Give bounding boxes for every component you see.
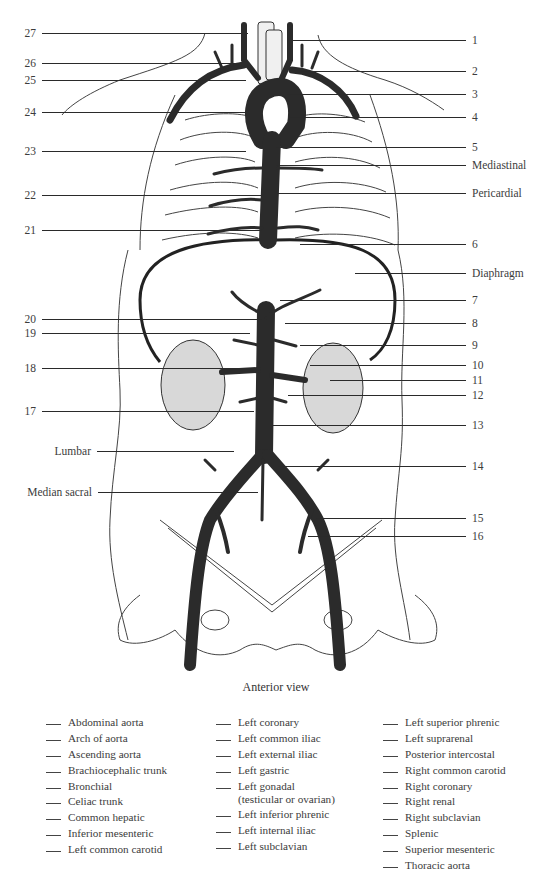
- word-bank-item[interactable]: Right renal: [383, 795, 506, 808]
- answer-blank[interactable]: [383, 811, 398, 820]
- leader-line: [98, 492, 258, 493]
- word-bank-item[interactable]: Thoracic aorta: [383, 859, 506, 872]
- leader-line: [290, 40, 466, 41]
- word-bank-item[interactable]: Common hepatic: [46, 811, 167, 824]
- leader-line: [300, 345, 466, 346]
- answer-blank[interactable]: [383, 780, 398, 789]
- word-bank-item[interactable]: Right coronary: [383, 780, 506, 793]
- answer-blank[interactable]: [383, 764, 398, 773]
- word-bank-item[interactable]: Left superior phrenic: [383, 716, 506, 729]
- answer-blank[interactable]: [46, 748, 61, 757]
- leader-line: [272, 425, 466, 426]
- leader-line: [276, 147, 466, 148]
- leader-line: [42, 80, 246, 81]
- word-bank-item[interactable]: Superior mesenteric: [383, 843, 506, 856]
- answer-blank[interactable]: [46, 732, 61, 741]
- answer-blank[interactable]: [46, 764, 61, 773]
- answer-blank[interactable]: [46, 716, 61, 725]
- label-number: 8: [472, 317, 478, 329]
- answer-blank[interactable]: [46, 780, 61, 789]
- aorta-branches-illustration: [0, 0, 552, 680]
- label-number: 24: [25, 106, 37, 118]
- answer-blank[interactable]: [383, 716, 398, 725]
- label-number: 7: [472, 294, 478, 306]
- label-number: 19: [25, 327, 37, 339]
- word-bank-item[interactable]: Bronchial: [46, 780, 167, 793]
- leader-line: [42, 368, 250, 369]
- word-bank-item[interactable]: Left internal iliac: [216, 824, 335, 837]
- leader-line: [278, 466, 466, 467]
- leader-line: [300, 71, 466, 72]
- label-number: 21: [25, 224, 37, 236]
- answer-blank[interactable]: [216, 748, 231, 757]
- answer-blank[interactable]: [216, 840, 231, 849]
- leader-line: [285, 323, 466, 324]
- answer-blank[interactable]: [216, 808, 231, 817]
- leader-line: [276, 193, 466, 194]
- label-number: 23: [25, 145, 37, 157]
- word-bank-item[interactable]: Inferior mesenteric: [46, 827, 167, 840]
- word-bank-item[interactable]: Left gonadal (testicular or ovarian): [216, 780, 335, 806]
- leader-line: [330, 380, 466, 381]
- word-bank-item[interactable]: Left subclavian: [216, 840, 335, 853]
- leader-line: [42, 230, 262, 231]
- leader-line: [42, 195, 262, 196]
- word-bank-item[interactable]: Left inferior phrenic: [216, 808, 335, 821]
- leader-line: [97, 451, 234, 452]
- word-bank-item[interactable]: Left common carotid: [46, 843, 167, 856]
- answer-blank[interactable]: [216, 716, 231, 725]
- word-bank-item[interactable]: Ascending aorta: [46, 748, 167, 761]
- leader-line: [310, 365, 466, 366]
- label-number: 14: [472, 460, 484, 472]
- label-number: 26: [25, 57, 37, 69]
- leader-line: [288, 395, 466, 396]
- word-bank-item[interactable]: Splenic: [383, 827, 506, 840]
- word-bank-column-2: Left coronary Left common iliac Left ext…: [216, 716, 335, 856]
- word-bank-item[interactable]: Celiac trunk: [46, 795, 167, 808]
- label-number: 3: [472, 88, 478, 100]
- answer-blank[interactable]: [216, 732, 231, 741]
- leader-line: [42, 411, 254, 412]
- leader-line: [287, 94, 466, 95]
- word-bank-item[interactable]: Right subclavian: [383, 811, 506, 824]
- word-bank-item[interactable]: Left common iliac: [216, 732, 335, 745]
- answer-blank[interactable]: [46, 795, 61, 804]
- answer-blank[interactable]: [216, 824, 231, 833]
- word-bank-item[interactable]: Brachiocephalic trunk: [46, 764, 167, 777]
- leader-line: [42, 63, 240, 64]
- answer-blank[interactable]: [46, 811, 61, 820]
- leader-line: [355, 273, 466, 274]
- answer-blank[interactable]: [46, 843, 61, 852]
- answer-blank[interactable]: [383, 795, 398, 804]
- answer-blank[interactable]: [383, 843, 398, 852]
- word-bank-item[interactable]: Left external iliac: [216, 748, 335, 761]
- label-number: 1: [472, 34, 478, 46]
- answer-blank[interactable]: [383, 859, 398, 868]
- label-term: Pericardial: [472, 187, 522, 199]
- label-number: 2: [472, 65, 478, 77]
- leader-line: [276, 165, 466, 166]
- answer-blank[interactable]: [216, 764, 231, 773]
- word-bank-item[interactable]: Right common carotid: [383, 764, 506, 777]
- word-bank-item[interactable]: Posterior intercostal: [383, 748, 506, 761]
- figure-caption: Anterior view: [0, 680, 552, 695]
- answer-blank[interactable]: [383, 732, 398, 741]
- answer-blank[interactable]: [46, 827, 61, 836]
- word-bank-item[interactable]: Abdominal aorta: [46, 716, 167, 729]
- answer-blank[interactable]: [383, 827, 398, 836]
- answer-blank[interactable]: [216, 780, 231, 789]
- label-number: 13: [472, 419, 484, 431]
- leader-line: [42, 333, 250, 334]
- label-number: 10: [472, 359, 484, 371]
- word-bank-item[interactable]: Arch of aorta: [46, 732, 167, 745]
- leader-line: [42, 151, 246, 152]
- word-bank-column-1: Abdominal aorta Arch of aorta Ascending …: [46, 716, 167, 859]
- label-number: 22: [25, 189, 37, 201]
- word-bank-item[interactable]: Left suprarenal: [383, 732, 506, 745]
- leader-line: [290, 117, 466, 118]
- word-bank-item[interactable]: Left coronary: [216, 716, 335, 729]
- label-number: 5: [472, 141, 478, 153]
- label-number: 20: [25, 313, 37, 325]
- word-bank-item[interactable]: Left gastric: [216, 764, 335, 777]
- answer-blank[interactable]: [383, 748, 398, 757]
